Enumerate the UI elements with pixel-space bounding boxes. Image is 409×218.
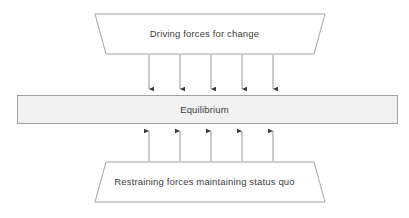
driving-forces-label: Driving forces for change <box>0 29 409 39</box>
restraining-forces-label: Restraining forces maintaining status qu… <box>0 177 409 187</box>
force-field-diagram: Driving forces for change Equilibrium Re… <box>0 0 409 218</box>
equilibrium-label: Equilibrium <box>0 105 409 115</box>
restraining-force-arrows <box>149 131 273 161</box>
driving-force-arrows <box>149 55 273 89</box>
